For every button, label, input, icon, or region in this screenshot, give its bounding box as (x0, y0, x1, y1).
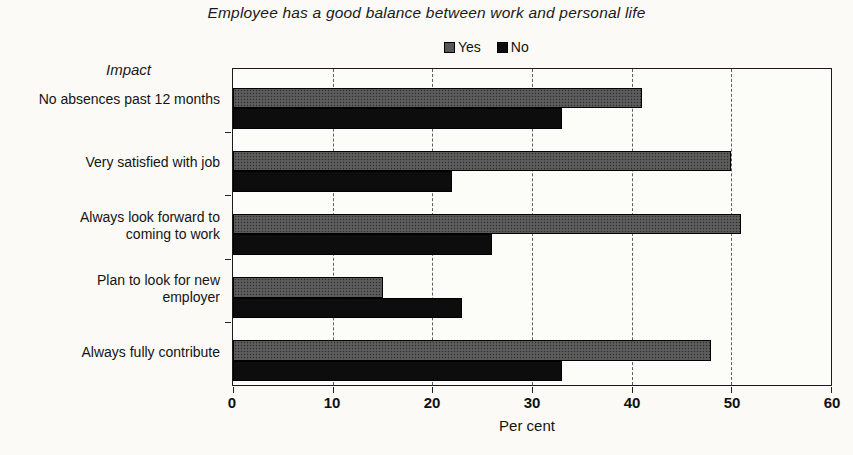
x-tick-label: 10 (324, 394, 341, 411)
plot-area (232, 68, 832, 386)
chart-canvas: Employee has a good balance between work… (0, 0, 853, 455)
y-axis-tick (225, 259, 231, 260)
x-tick-label: 20 (424, 394, 441, 411)
bar-no (233, 108, 562, 129)
bar-yes (233, 340, 711, 361)
y-axis-tick (225, 322, 231, 323)
x-axis-tick (333, 387, 334, 393)
bar-yes (233, 151, 731, 172)
x-axis-tick (432, 387, 433, 393)
x-axis-tick (831, 387, 832, 393)
category-label: Always fully contribute (0, 321, 220, 384)
category-label: Very satisfied with job (0, 131, 220, 194)
category-label: Always look forward to coming to work (0, 194, 220, 257)
category-label: No absences past 12 months (0, 68, 220, 131)
x-axis-tick (731, 387, 732, 393)
legend-label-yes: Yes (458, 39, 481, 55)
bar-no (233, 298, 462, 319)
legend: Yes No (444, 39, 529, 55)
x-tick-label: 0 (228, 394, 236, 411)
x-tick-label: 60 (824, 394, 841, 411)
chart-title: Employee has a good balance between work… (0, 4, 853, 22)
x-tick-label: 50 (724, 394, 741, 411)
legend-item-yes: Yes (444, 39, 481, 55)
legend-item-no: No (497, 39, 529, 55)
x-axis-tick (532, 387, 533, 393)
x-axis-tick (632, 387, 633, 393)
bar-yes (233, 88, 642, 109)
x-tick-labels: 0102030405060 (0, 394, 853, 414)
y-axis-tick (225, 132, 231, 133)
category-labels: No absences past 12 monthsVery satisfied… (0, 68, 220, 386)
x-axis-tick (233, 387, 234, 393)
bar-yes (233, 277, 383, 298)
category-label: Plan to look for new employer (0, 258, 220, 321)
bar-no (233, 361, 562, 382)
legend-swatch-no-icon (497, 42, 508, 53)
bar-yes (233, 214, 741, 235)
bar-no (233, 234, 492, 255)
legend-swatch-yes-icon (444, 42, 455, 53)
x-tick-label: 30 (524, 394, 541, 411)
x-axis-title: Per cent (232, 417, 822, 434)
x-tick-label: 40 (624, 394, 641, 411)
y-axis-tick (225, 195, 231, 196)
legend-label-no: No (511, 39, 529, 55)
bar-no (233, 171, 452, 192)
